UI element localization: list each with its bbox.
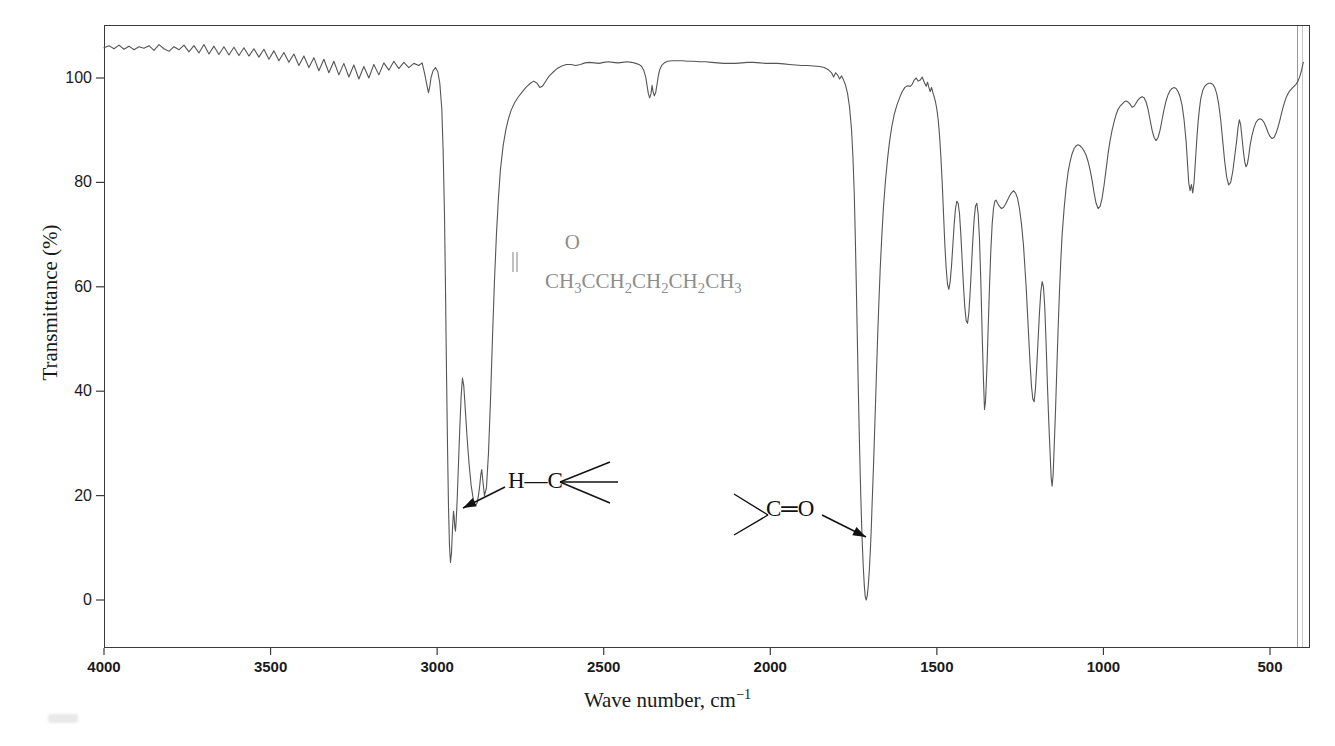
ir-spectrum-figure: 4000350030002500200015001000500 02040608… <box>0 0 1335 746</box>
y-axis-title: Transmittance (%) <box>38 113 63 493</box>
annotation-arrow-carbonyl <box>822 515 866 537</box>
annotation-ch-stretch-label: H—C <box>508 468 563 494</box>
x-tick-label: 4000 <box>87 658 120 675</box>
scan-smudge-artifact <box>48 714 78 723</box>
x-axis-title-text: Wave number, cm <box>584 688 736 712</box>
y-tick-label: 0 <box>40 591 92 609</box>
x-tick-label: 500 <box>1257 658 1282 675</box>
annotation-bonds-carbonyl <box>734 494 768 535</box>
x-tick-label: 2000 <box>754 658 787 675</box>
molecule-carbon-chain: CH3CCH2CH2CH2CH3 <box>545 269 742 297</box>
spectrum-curve <box>104 45 1303 600</box>
x-tick-label: 1000 <box>1087 658 1120 675</box>
x-tick-label: 1500 <box>920 658 953 675</box>
molecule-structure-label: O CH3CCH2CH2CH2CH3 <box>545 232 742 297</box>
y-tick-label: 100 <box>40 69 92 87</box>
x-tick-label: 3500 <box>254 658 287 675</box>
x-tick-label: 2500 <box>587 658 620 675</box>
axis-ticks <box>96 78 1270 655</box>
x-tick-label: 3000 <box>420 658 453 675</box>
annotation-carbonyl-label: C═O <box>766 496 814 522</box>
x-axis-title-exponent: −1 <box>736 686 751 702</box>
annotation-bonds-ch-stretch <box>560 462 618 503</box>
molecule-oxygen-atom: O <box>403 232 742 253</box>
molecule-bond-spacer <box>403 253 742 269</box>
spectrum-overlay <box>0 0 1335 746</box>
x-axis-title: Wave number, cm−1 <box>0 686 1335 713</box>
